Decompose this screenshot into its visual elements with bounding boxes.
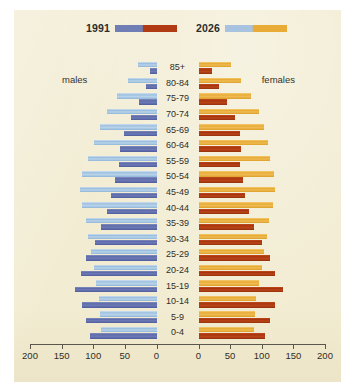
- bar-male-1991: [146, 84, 157, 89]
- age-group-label: 30-34: [157, 235, 199, 244]
- age-group-label: 50-54: [157, 172, 199, 181]
- bar-male-2026: [138, 62, 157, 67]
- female-bars: [199, 122, 342, 138]
- male-bars: [14, 138, 157, 154]
- bar-male-1991: [139, 99, 157, 104]
- male-bars: [14, 169, 157, 185]
- pyramid-row: 70-74: [14, 107, 341, 123]
- bar-male-2026: [99, 296, 157, 301]
- age-group-label: 80-84: [157, 79, 199, 88]
- bar-male-1991: [150, 68, 156, 73]
- legend-item-2026: 2026: [196, 22, 287, 34]
- bar-female-1991: [199, 68, 213, 73]
- female-bars: [199, 169, 342, 185]
- axis-tick-label: 0: [196, 350, 201, 361]
- male-bars: [14, 185, 157, 201]
- female-bars: [199, 278, 342, 294]
- bar-female-2026: [199, 265, 262, 270]
- bar-female-1991: [199, 115, 236, 120]
- x-axis: 200150100500050100150200: [14, 344, 341, 378]
- age-group-label: 55-59: [157, 157, 199, 166]
- male-bars: [14, 200, 157, 216]
- bar-male-2026: [101, 327, 156, 332]
- female-bars: [199, 310, 342, 326]
- axis-tick: [262, 344, 263, 349]
- bar-male-1991: [124, 131, 157, 136]
- bar-male-2026: [128, 78, 156, 83]
- bar-male-1991: [120, 146, 157, 151]
- pyramid-row: 85+: [14, 60, 341, 76]
- bar-female-2026: [199, 187, 276, 192]
- age-group-label: 0-4: [157, 328, 199, 337]
- axis-tick-label: 100: [85, 350, 101, 361]
- axis-tick-label: 150: [285, 350, 301, 361]
- bar-male-1991: [101, 224, 156, 229]
- bar-female-2026: [199, 156, 271, 161]
- legend-swatch-2026-icon: [225, 25, 287, 32]
- bar-female-1991: [199, 131, 241, 136]
- legend-label-1991: 1991: [86, 22, 110, 34]
- male-bars: [14, 216, 157, 232]
- pyramid-row: 45-49: [14, 185, 341, 201]
- female-bars: [199, 294, 342, 310]
- chart-legend: 1991 2026: [14, 22, 341, 42]
- axis-tick-label: 50: [120, 350, 131, 361]
- axis-tick: [93, 344, 94, 349]
- bar-male-2026: [82, 171, 156, 176]
- bar-female-1991: [199, 271, 276, 276]
- pyramid-row: 5-9: [14, 310, 341, 326]
- male-bars: [14, 76, 157, 92]
- bar-male-2026: [88, 156, 156, 161]
- pyramid-row: 55-59: [14, 154, 341, 170]
- bar-female-2026: [199, 327, 254, 332]
- bar-male-2026: [82, 202, 156, 207]
- bar-male-2026: [94, 140, 157, 145]
- axis-tick: [125, 344, 126, 349]
- bar-female-1991: [199, 333, 266, 338]
- male-bars: [14, 232, 157, 248]
- pyramid-row: 35-39: [14, 216, 341, 232]
- bar-female-2026: [199, 218, 270, 223]
- bar-female-2026: [199, 109, 259, 114]
- axis-tick-label: 150: [54, 350, 70, 361]
- bar-female-2026: [199, 140, 268, 145]
- male-bars: [14, 294, 157, 310]
- age-group-label: 15-19: [157, 282, 199, 291]
- bar-male-1991: [90, 333, 156, 338]
- bar-female-2026: [199, 202, 273, 207]
- bar-male-1991: [82, 302, 156, 307]
- bar-male-2026: [88, 234, 156, 239]
- axis-tick-label: 100: [254, 350, 270, 361]
- age-group-label: 45-49: [157, 188, 199, 197]
- male-bars: [14, 247, 157, 263]
- axis-line: [30, 344, 325, 345]
- male-bars: [14, 122, 157, 138]
- bar-male-2026: [86, 218, 157, 223]
- male-bars: [14, 60, 157, 76]
- axis-tick: [325, 344, 326, 349]
- pyramid-row: 40-44: [14, 200, 341, 216]
- male-bars: [14, 107, 157, 123]
- pyramid-rows: 85+80-8475-7970-7465-6960-6455-5950-5445…: [14, 60, 341, 342]
- pyramid-row: 15-19: [14, 278, 341, 294]
- bar-male-2026: [100, 124, 157, 129]
- legend-item-1991: 1991: [86, 22, 177, 34]
- axis-tick: [230, 344, 231, 349]
- bar-female-2026: [199, 62, 232, 67]
- bar-female-1991: [199, 302, 276, 307]
- female-bars: [199, 325, 342, 341]
- bar-male-1991: [86, 318, 157, 323]
- axis-tick-label: 200: [22, 350, 38, 361]
- bar-male-1991: [107, 209, 156, 214]
- age-group-label: 5-9: [157, 313, 199, 322]
- axis-tick: [30, 344, 31, 349]
- bar-male-1991: [115, 177, 157, 182]
- bar-male-1991: [95, 240, 157, 245]
- bar-female-1991: [199, 209, 249, 214]
- bar-male-2026: [91, 249, 157, 254]
- bar-male-2026: [107, 109, 156, 114]
- bar-male-1991: [75, 287, 157, 292]
- population-pyramid-chart: 1991 2026 males females 85+80-8475-7970-…: [14, 10, 341, 382]
- female-bars: [199, 138, 342, 154]
- bar-female-2026: [199, 171, 275, 176]
